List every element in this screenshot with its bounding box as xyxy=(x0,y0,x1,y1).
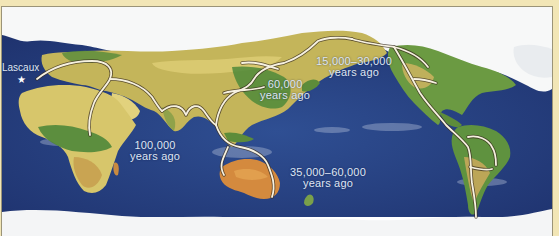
migration-label-60000: 60,000 years ago xyxy=(260,79,310,101)
map-graphic xyxy=(2,7,552,235)
migration-label-35000-60000: 35,000–60,000 years ago xyxy=(290,167,366,189)
migration-label-100000: 100,000 years ago xyxy=(130,140,180,162)
star-icon: ★ xyxy=(17,75,26,85)
site-label-lascaux: Lascaux xyxy=(2,63,39,73)
migration-label-15000-30000: 15,000–30,000 years ago xyxy=(316,56,392,78)
world-migration-map: Lascaux ★ 100,000 years ago 60,000 years… xyxy=(1,6,553,235)
